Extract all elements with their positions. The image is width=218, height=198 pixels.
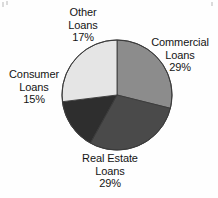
- slice-label-realestate-line2: Loans: [62, 165, 158, 178]
- slice-label-other-line1: Other: [50, 6, 116, 19]
- pie-chart-figure: Other Loans 17% Commercial Loans 29% Con…: [0, 0, 218, 198]
- slice-label-consumer-line1: Consumer: [1, 68, 67, 81]
- scan-artifact: [211, 2, 213, 6]
- scan-artifact: [2, 2, 4, 7]
- slice-label-other-loans: Other Loans 17%: [50, 6, 116, 44]
- slice-label-other-line2: Loans: [50, 19, 116, 32]
- slice-label-realestate-line1: Real Estate: [62, 152, 158, 165]
- slice-label-other-percent: 17%: [50, 31, 116, 44]
- scan-artifact: [6, 1, 8, 5]
- slice-label-commercial-percent: 29%: [144, 61, 216, 74]
- slice-label-commercial-line1: Commercial: [144, 36, 216, 49]
- pie-slice-other-loans: [62, 40, 117, 102]
- slice-label-consumer-loans: Consumer Loans 15%: [1, 68, 67, 106]
- slice-label-commercial-loans: Commercial Loans 29%: [144, 36, 216, 74]
- slice-label-real-estate-loans: Real Estate Loans 29%: [62, 152, 158, 190]
- slice-label-commercial-line2: Loans: [144, 49, 216, 62]
- slice-label-realestate-percent: 29%: [62, 177, 158, 190]
- slice-label-consumer-percent: 15%: [1, 93, 67, 106]
- slice-label-consumer-line2: Loans: [1, 81, 67, 94]
